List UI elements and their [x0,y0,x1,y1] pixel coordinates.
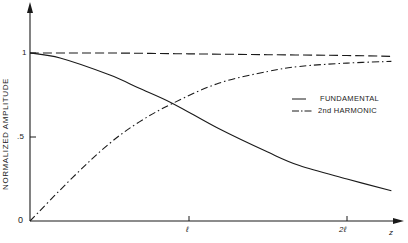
series-line-0 [30,53,391,191]
chart-canvas [0,0,408,243]
series-line-1 [30,61,391,221]
x-tick-label-2l: 2ℓ [339,225,347,234]
legend-label-fundamental: FUNDAMENTAL [320,94,379,103]
x-axis-arrow-icon [393,218,404,224]
x-tick-label-l: ℓ [186,225,189,234]
legend-label-harmonic: 2nd HARMONIC [318,106,377,115]
y-tick-label-0: 0 [18,215,23,225]
y-axis-arrow-icon [27,2,33,13]
series-line-2 [30,53,391,56]
series-layer [30,53,391,221]
x-axis-label: z [389,228,393,237]
y-axis-label: NORMALIZED AMPLITUDE [1,78,10,190]
y-tick-label-half: .5 [17,132,24,141]
y-tick-label-1: 1 [22,48,27,57]
